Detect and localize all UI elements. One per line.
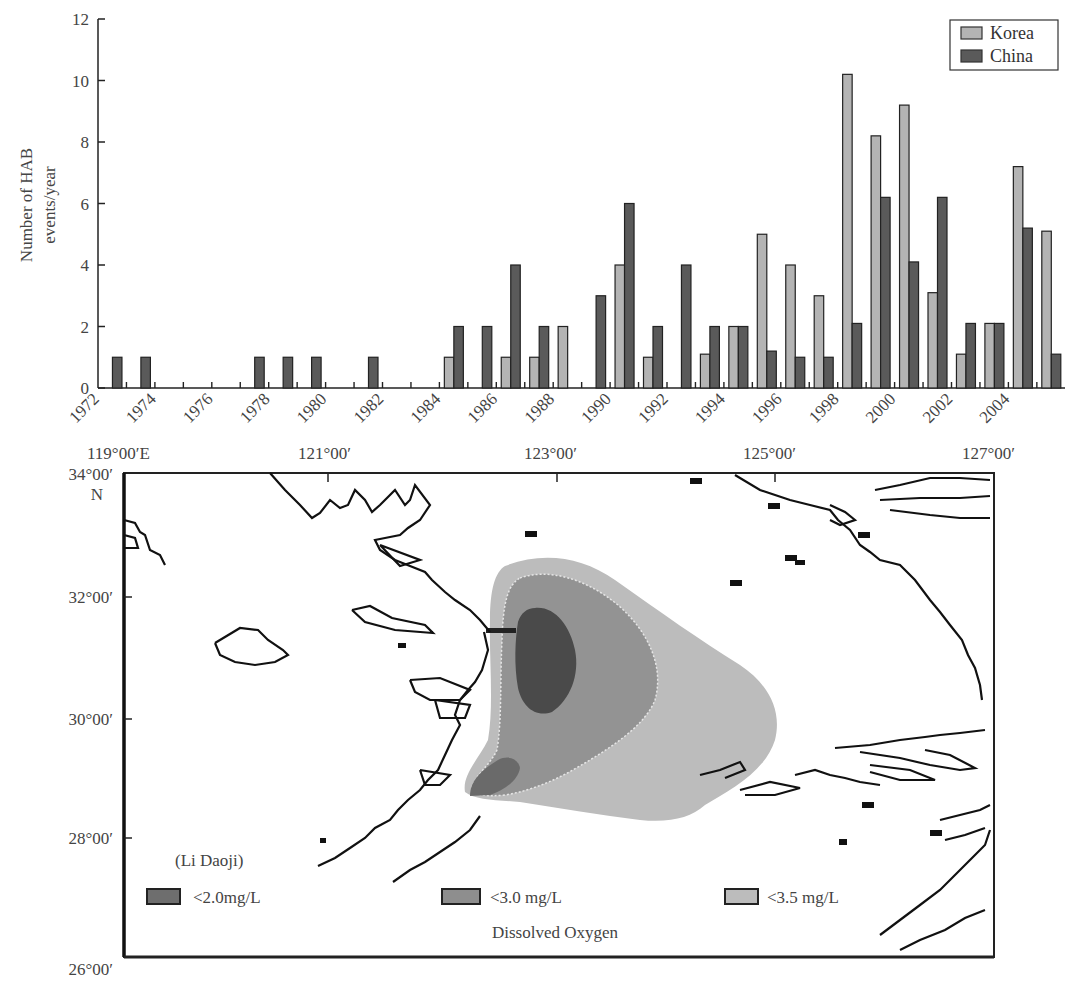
x-tick-label: 1974	[122, 389, 160, 427]
x-tick-label: 1984	[407, 389, 445, 427]
y-axis-title: Number of HAB events/year	[17, 148, 59, 262]
x-tick-label: 2000	[862, 389, 899, 426]
legend-swatch-korea	[961, 27, 982, 39]
bar-korea-2000	[900, 105, 910, 388]
bar-korea-1998	[843, 74, 853, 388]
x-tick-label: 1978	[236, 389, 273, 426]
lat-label-32: 32°00′	[68, 588, 113, 607]
bar-china-1987	[539, 327, 549, 389]
legend-label-china: China	[990, 46, 1033, 66]
bar-korea-1991	[644, 357, 654, 388]
bar-china-1996	[795, 357, 805, 388]
bar-korea-1990	[615, 265, 625, 388]
bar-china-1972	[112, 357, 122, 388]
legend-swatch-below-3-5	[725, 889, 758, 904]
bar-china-1989	[596, 296, 606, 388]
x-tick-label: 2002	[919, 389, 956, 426]
y-axis-title-line-1: Number of HAB	[17, 148, 36, 262]
bar-korea-2002	[956, 354, 966, 388]
y-tick-label: 10	[72, 72, 89, 91]
y-tick-label: 8	[81, 133, 90, 152]
zone-below-3-5-mgl	[465, 558, 777, 821]
bar-korea-1986	[501, 357, 511, 388]
y-tick-label: 12	[72, 10, 89, 29]
x-axis: 1972197419761978198019821984198619881990…	[65, 382, 1065, 427]
bar-china-1985	[482, 327, 492, 389]
bar-korea-1993	[700, 354, 710, 388]
bar-china-1998	[852, 323, 862, 388]
x-tick-label: 2004	[976, 389, 1014, 427]
source-label: (Li Daoji)	[175, 851, 243, 870]
bar-korea-1997	[814, 296, 824, 388]
bar-china-1973	[141, 357, 151, 388]
zone-below-3-0-mgl	[472, 574, 658, 796]
estuary-marker	[486, 628, 516, 633]
legend-swatch-below-3-0	[442, 889, 480, 904]
legend-label-below-3-0: <3.0 mg/L	[490, 888, 562, 907]
y-axis: 024681012	[72, 10, 105, 398]
north-label: N	[91, 485, 103, 504]
bar-china-1994	[738, 327, 748, 389]
legend-swatch-below-2-0	[147, 889, 180, 904]
lat-label-26: 26°00′	[68, 960, 113, 979]
bar-korea-1995	[757, 234, 767, 388]
bar-korea-1999	[871, 136, 881, 388]
legend-label-below-3-5: <3.5 mg/L	[767, 888, 839, 907]
x-tick-label: 1994	[691, 389, 729, 427]
coastlines	[124, 473, 990, 950]
bar-china-1990	[625, 204, 635, 389]
bar-china-1999	[881, 197, 891, 388]
x-tick-label: 1980	[293, 389, 330, 426]
zone-below-2-0-mgl-south	[470, 758, 520, 796]
legend-label-korea: Korea	[990, 23, 1034, 43]
bar-china-1992	[681, 265, 691, 388]
bar-korea-1996	[786, 265, 796, 388]
bars-group	[112, 74, 1060, 388]
hypoxia-zones	[465, 558, 777, 821]
x-tick-label: 1986	[464, 389, 501, 426]
map-frame-ticks	[124, 473, 775, 838]
bar-china-2001	[938, 197, 948, 388]
bar-china-2002	[966, 323, 976, 388]
bar-china-1977	[255, 357, 265, 388]
y-tick-label: 6	[81, 195, 90, 214]
y-tick-label: 2	[81, 318, 90, 337]
bar-china-1997	[824, 357, 834, 388]
bar-china-2003	[994, 323, 1004, 388]
bar-korea-1988	[558, 327, 568, 389]
y-axis-title-line-2: events/year	[40, 166, 59, 244]
chart-legend: Korea China	[950, 20, 1058, 70]
lat-label-28: 28°00′	[68, 829, 113, 848]
x-tick-label: 1982	[350, 389, 387, 426]
bar-korea-2003	[985, 323, 995, 388]
bar-china-1993	[710, 327, 720, 389]
map-legend: (Li Daoji) <2.0mg/L <3.0 mg/L <3.5 mg/L …	[147, 851, 839, 942]
bar-china-1981	[369, 357, 379, 388]
legend-label-below-2-0: <2.0mg/L	[193, 888, 261, 907]
x-tick-label: 1996	[748, 389, 785, 426]
bar-china-2000	[909, 262, 919, 388]
hab-events-bar-chart: Number of HAB events/year 024681012 1972…	[0, 0, 1073, 470]
bar-korea-1987	[530, 357, 540, 388]
bar-korea-2004	[1013, 167, 1023, 388]
bar-china-1995	[767, 351, 777, 388]
zone-below-2-0-mgl-north	[515, 608, 576, 714]
bar-korea-2005	[1042, 231, 1052, 388]
small-islands	[320, 478, 942, 845]
x-tick-label: 1998	[805, 389, 842, 426]
x-tick-label: 1972	[65, 389, 102, 426]
bar-china-1978	[283, 357, 293, 388]
bar-china-1984	[454, 327, 464, 389]
x-tick-label: 1988	[521, 389, 558, 426]
bar-korea-2001	[928, 293, 938, 388]
bar-china-2005	[1051, 354, 1061, 388]
x-tick-label: 1990	[577, 389, 614, 426]
legend-swatch-china	[961, 50, 982, 62]
map-frame	[124, 473, 994, 957]
bar-china-1986	[511, 265, 521, 388]
bar-china-2004	[1023, 228, 1033, 388]
bar-korea-1994	[729, 327, 739, 389]
y-tick-label: 4	[81, 256, 90, 275]
x-tick-label: 1992	[634, 389, 671, 426]
bar-china-1991	[653, 327, 663, 389]
